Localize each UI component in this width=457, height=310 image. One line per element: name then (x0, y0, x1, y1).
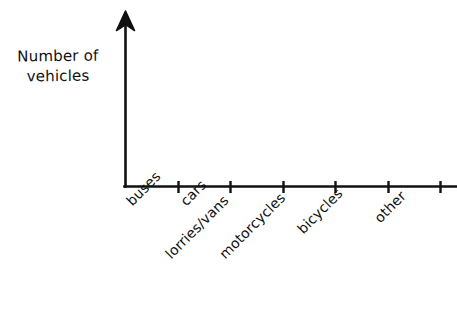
y-axis-title: Number of vehicles (2, 46, 114, 86)
y-axis-title-line-2: vehicles (2, 66, 114, 86)
chart-canvas: Number of vehicles buses cars lorries/va… (0, 0, 457, 310)
y-axis-title-line-1: Number of (2, 46, 114, 66)
